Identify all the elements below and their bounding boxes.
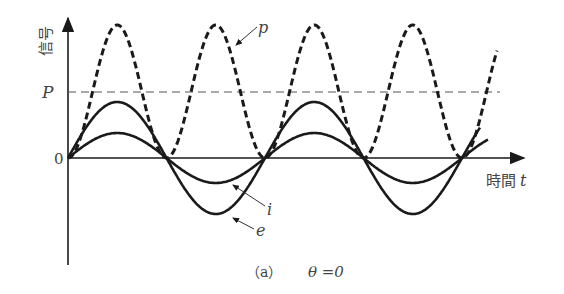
e-leader-line [233, 218, 254, 229]
y-axis-label: 信号 [37, 26, 55, 56]
curve-label-i: i [267, 200, 272, 219]
level-label-P: P [41, 82, 54, 102]
caption-prefix: （a） [246, 264, 282, 280]
power-waveform-diagram: 信号 P 0 時間 t p i e （a） θ =0 [0, 0, 564, 294]
caption-condition: θ =0 [308, 263, 344, 281]
origin-label: 0 [54, 150, 64, 168]
x-axis-variable: t [520, 171, 527, 190]
x-axis-label: 時間 [486, 172, 516, 190]
i-leader-line [233, 185, 265, 206]
curve-label-e: e [256, 221, 265, 240]
curve-label-p: p [258, 18, 268, 37]
p-leader-line [236, 27, 257, 45]
